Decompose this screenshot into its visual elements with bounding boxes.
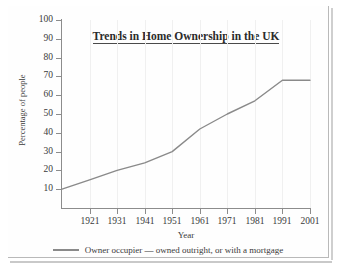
- y-tick-100: [56, 20, 62, 21]
- y-tick-label-70: 70: [13, 71, 53, 81]
- x-tick-label-2001: 2001: [290, 217, 330, 227]
- chart-title-text: Trends in Home Ownership in the UK: [93, 30, 280, 44]
- y-tick-20: [56, 170, 62, 171]
- y-tick-label-10: 10: [13, 184, 53, 194]
- legend-line-swatch: [53, 249, 79, 251]
- y-tick-40: [56, 133, 62, 134]
- x-axis-line: [61, 208, 311, 209]
- gridline-1981: [255, 20, 256, 208]
- chart-figure: Trends in Home Ownership in the UK Perce…: [0, 0, 345, 272]
- x-tick-1921: [90, 208, 91, 214]
- legend-label: Owner occupier — owned outright, or with…: [85, 245, 284, 255]
- y-tick-30: [56, 152, 62, 153]
- gridline-1921: [90, 20, 91, 208]
- x-axis-label: Year: [62, 230, 310, 240]
- y-tick-label-80: 80: [13, 53, 53, 63]
- y-tick-label-90: 90: [13, 34, 53, 44]
- gridline-1931: [117, 20, 118, 208]
- x-tick-1971: [227, 208, 228, 214]
- gridline-1941: [145, 20, 146, 208]
- x-tick-1991: [282, 208, 283, 214]
- gridline-1991: [282, 20, 283, 208]
- y-tick-label-40: 40: [13, 128, 53, 138]
- y-tick-label-100: 100: [13, 15, 53, 25]
- y-tick-80: [56, 58, 62, 59]
- x-tick-1981: [255, 208, 256, 214]
- y-tick-label-30: 30: [13, 147, 53, 157]
- x-tick-1951: [172, 208, 173, 214]
- x-tick-1931: [117, 208, 118, 214]
- figure-frame-shadow-right: [331, 8, 333, 260]
- y-tick-70: [56, 76, 62, 77]
- x-tick-1941: [145, 208, 146, 214]
- gridline-1951: [172, 20, 173, 208]
- gridline-1971: [227, 20, 228, 208]
- y-tick-90: [56, 39, 62, 40]
- x-tick-2001: [310, 208, 311, 214]
- x-tick-1961: [200, 208, 201, 214]
- gridline-2001: [310, 20, 311, 208]
- y-tick-label-50: 50: [13, 109, 53, 119]
- y-tick-50: [56, 114, 62, 115]
- y-tick-label-60: 60: [13, 90, 53, 100]
- gridline-1961: [200, 20, 201, 208]
- y-tick-label-20: 20: [13, 165, 53, 175]
- figure-frame-shadow-bottom: [10, 261, 332, 263]
- y-tick-10: [56, 189, 62, 190]
- y-tick-60: [56, 95, 62, 96]
- chart-title: Trends in Home Ownership in the UK: [62, 26, 310, 44]
- chart-legend: Owner occupier — owned outright, or with…: [18, 245, 318, 255]
